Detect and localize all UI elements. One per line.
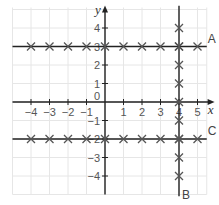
x-tick-label: 3 [157, 106, 163, 118]
x-axis-label: x [207, 102, 214, 117]
x-tick-label: −4 [25, 106, 38, 118]
y-tick-label: 2 [94, 59, 100, 71]
y-tick-label: −1 [87, 115, 100, 127]
coordinate-grid: xy−4−3−2−10123454321−1−2−3−4ABC [0, 0, 219, 205]
y-tick-label: −3 [87, 152, 100, 164]
y-tick-label: 4 [94, 22, 100, 34]
x-tick-label: 0 [94, 90, 100, 102]
x-tick-label: −2 [62, 106, 75, 118]
line-label-c: C [208, 124, 217, 138]
y-tick-label: −4 [87, 170, 100, 182]
x-tick-label: −3 [43, 106, 56, 118]
x-tick-label: 1 [120, 106, 126, 118]
x-tick-label: 2 [139, 106, 145, 118]
line-label-a: A [208, 32, 216, 46]
line-label-b: B [182, 188, 190, 202]
x-tick-label: 5 [194, 106, 200, 118]
y-axis-label: y [93, 2, 101, 17]
y-tick-label: 1 [94, 78, 100, 90]
